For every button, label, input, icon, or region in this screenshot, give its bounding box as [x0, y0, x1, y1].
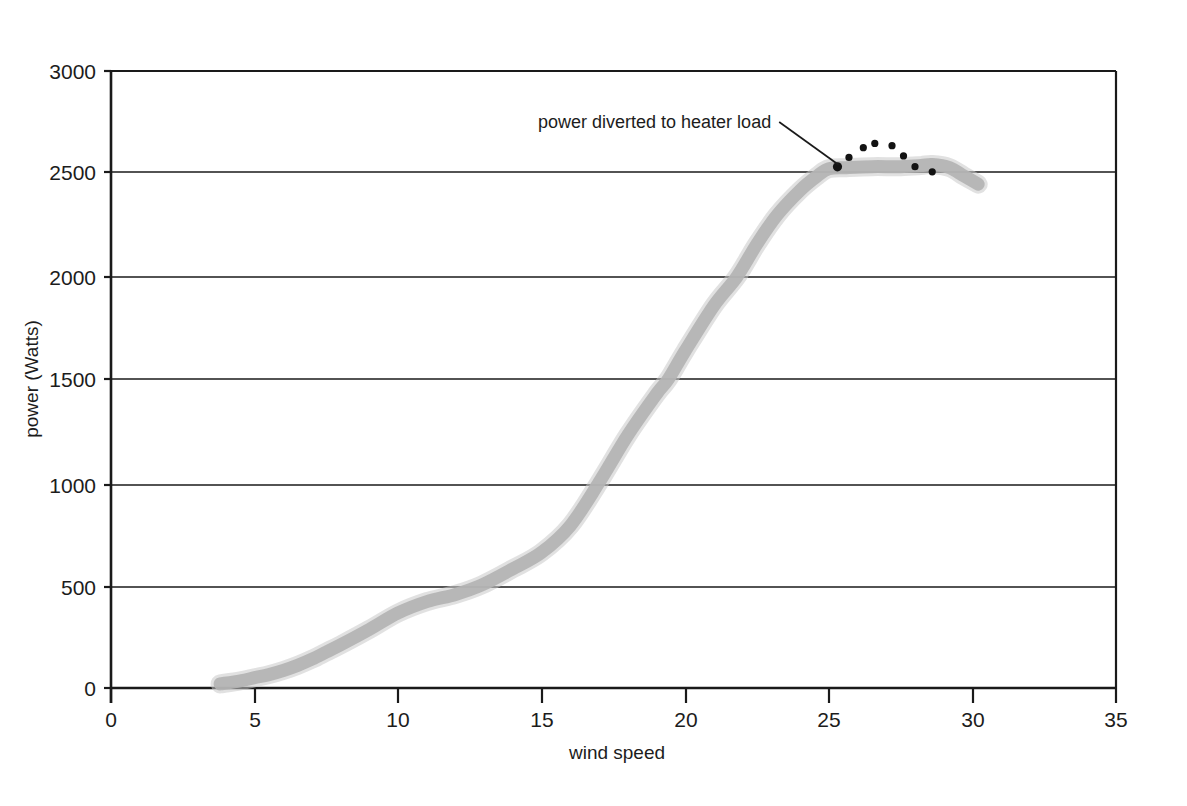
x-tick-label-30: 30: [961, 708, 984, 731]
y-tick-label-2500: 2500: [49, 161, 96, 184]
heater-load-dot: [888, 142, 895, 149]
x-tick-label-0: 0: [105, 708, 117, 731]
x-tick-label-5: 5: [249, 708, 261, 731]
annotation-label: power diverted to heater load: [538, 112, 771, 132]
heater-load-dot: [860, 144, 867, 151]
y-tick-label-500: 500: [61, 576, 96, 599]
wind-power-chart-figure: 3000 2500 2000 1500 1000 500 0 0 5 10 15…: [0, 0, 1187, 806]
x-tick-label-20: 20: [674, 708, 697, 731]
x-tick-label-15: 15: [530, 708, 553, 731]
y-tick-label-0: 0: [84, 677, 96, 700]
y-tick-label-1500: 1500: [49, 368, 96, 391]
x-tick-label-25: 25: [817, 708, 840, 731]
y-axis-title: power (Watts): [21, 320, 42, 438]
y-tick-label-3000: 3000: [49, 60, 96, 83]
y-tick-label-1000: 1000: [49, 474, 96, 497]
x-tick-label-10: 10: [386, 708, 409, 731]
chart-svg: 3000 2500 2000 1500 1000 500 0 0 5 10 15…: [0, 0, 1187, 806]
heater-load-dot: [911, 163, 918, 170]
y-tick-label-2000: 2000: [49, 266, 96, 289]
heater-load-dot: [900, 152, 907, 159]
heater-load-dot: [929, 168, 936, 175]
x-tick-label-35: 35: [1104, 708, 1127, 731]
heater-load-dot: [871, 140, 878, 147]
heater-load-dot: [845, 154, 852, 161]
x-axis-title: wind speed: [568, 742, 665, 763]
